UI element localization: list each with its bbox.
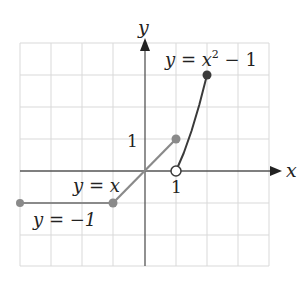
y-axis-arrow-icon <box>140 38 150 51</box>
x-axis-label: x <box>286 159 297 181</box>
y-axis-label: y <box>137 16 149 38</box>
open-point-icon <box>171 166 181 176</box>
annotation-y-equals-x: y = x <box>72 175 120 196</box>
closed-point-icon <box>203 71 212 80</box>
axes <box>20 48 272 266</box>
annotation-parabola: y = x2 − 1 <box>164 48 257 70</box>
x-tick-label-1: 1 <box>171 177 182 197</box>
x-axis-arrow-icon <box>270 166 282 176</box>
y-tick-label-1: 1 <box>127 131 138 151</box>
piecewise-function-graph: x y 1 1 y = x y = −1 y = x2 − 1 <box>0 0 299 282</box>
annotation-y-equals-neg1: y = −1 <box>32 209 96 230</box>
curve-parabola <box>176 75 207 171</box>
closed-point-icon <box>16 199 24 207</box>
closed-point-icon <box>172 135 181 144</box>
